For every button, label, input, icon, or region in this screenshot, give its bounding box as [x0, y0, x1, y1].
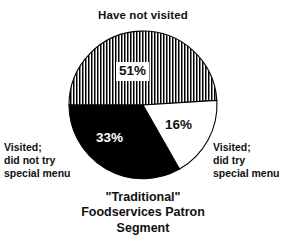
pie-value-label-have-not-visited: 51%: [116, 62, 149, 81]
slice-callout-label-visited-did-try: Visited; did try special menu: [213, 141, 280, 179]
callout-line: did not try: [4, 154, 71, 167]
callout-line: special menu: [213, 167, 280, 180]
chart-title: "Traditional" Foodservices Patron Segmen…: [0, 190, 286, 236]
chart-title-line: Foodservices Patron: [0, 205, 286, 220]
slice-callout-label-visited-did-not-try: Visited; did not try special menu: [4, 141, 71, 179]
callout-line: did try: [213, 154, 280, 167]
callout-line: Visited;: [4, 141, 71, 154]
pie-chart: [67, 29, 219, 181]
chart-title-line: "Traditional": [0, 190, 286, 205]
callout-line: Visited;: [213, 141, 280, 154]
slice-callout-label-have-not-visited: Have not visited: [0, 9, 286, 21]
pie-value-label-visited-did-try: 16%: [165, 118, 192, 132]
callout-line: special menu: [4, 167, 71, 180]
chart-title-line: Segment: [0, 221, 286, 236]
pie-chart-svg: [67, 29, 219, 181]
chart-canvas: Have not visited 51% 33% 16% Visited; di…: [0, 0, 286, 239]
pie-value-label-visited-did-not-try: 33%: [96, 131, 123, 145]
